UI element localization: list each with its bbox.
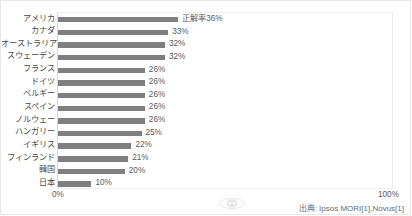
bar-value-label: 26%	[149, 76, 165, 89]
bar-value-label: 32%	[169, 38, 185, 51]
bar	[58, 30, 168, 35]
bar	[58, 80, 145, 85]
category-label: ベルギー	[1, 88, 55, 101]
bar	[58, 169, 125, 174]
bar-row: 26%	[58, 64, 392, 77]
bar-chart: アメリカカナダオーストラリアスウェーデンフランスドイツベルギースペインノルウェー…	[0, 0, 411, 215]
bar	[58, 143, 131, 148]
bar-value-label: 22%	[135, 139, 151, 152]
bar	[58, 93, 145, 98]
bar-row: 26%	[58, 89, 392, 102]
bar-value-label: 26%	[149, 89, 165, 102]
bar	[58, 42, 165, 47]
bar	[58, 118, 145, 123]
bar-value-label: 21%	[132, 152, 148, 165]
bar-value-label: 26%	[149, 64, 165, 77]
bar-row: 26%	[58, 115, 392, 128]
bar-value-label: 33%	[172, 26, 188, 39]
bar	[58, 17, 178, 22]
category-label: カナダ	[1, 25, 55, 38]
bar-value-label: 25%	[146, 127, 162, 140]
plot-area: 正解率36%33%32%32%26%26%26%26%26%25%22%21%2…	[57, 12, 393, 189]
bar	[58, 156, 128, 161]
bar-row: 26%	[58, 77, 392, 90]
category-label: スウェーデン	[1, 50, 55, 63]
bar-row: 10%	[58, 178, 392, 191]
bar	[58, 55, 165, 60]
category-label: イギリス	[1, 139, 55, 152]
category-label: スペイン	[1, 101, 55, 114]
bar-row: 33%	[58, 26, 392, 39]
bar-value-label: 20%	[129, 165, 145, 178]
category-label: 韓国	[1, 164, 55, 177]
category-label: ドイツ	[1, 76, 55, 89]
bar-row: 21%	[58, 153, 392, 166]
bar-row: 22%	[58, 140, 392, 153]
bar-row: 25%	[58, 127, 392, 140]
bar-row: 26%	[58, 102, 392, 115]
bar-row: 32%	[58, 51, 392, 64]
bar-row: 正解率36%	[58, 14, 392, 27]
bar-row: 20%	[58, 165, 392, 178]
bar-value-label: 10%	[95, 177, 111, 190]
category-label: 日本	[1, 177, 55, 190]
category-label: フランス	[1, 63, 55, 76]
category-axis: アメリカカナダオーストラリアスウェーデンフランスドイツベルギースペインノルウェー…	[1, 12, 55, 189]
bar-value-label: 26%	[149, 114, 165, 127]
bar-value-label: 32%	[169, 51, 185, 64]
bar	[58, 68, 145, 73]
x-tick-label-min: 0%	[52, 190, 64, 199]
bar-value-label: 正解率36%	[182, 13, 222, 26]
category-label: オーストラリア	[1, 38, 55, 51]
bar-value-label: 26%	[149, 101, 165, 114]
category-label: ノルウェー	[1, 114, 55, 127]
bar	[58, 131, 142, 136]
category-label: アメリカ	[1, 13, 55, 26]
x-tick-label-max: 100%	[378, 190, 399, 199]
category-label: ハンガリー	[1, 126, 55, 139]
source-note: 出典: Ipsos MORI[1],Novus[1]	[299, 202, 404, 213]
bar-row: 32%	[58, 39, 392, 52]
category-label: フィンランド	[1, 152, 55, 165]
bar	[58, 181, 91, 186]
bar	[58, 106, 145, 111]
